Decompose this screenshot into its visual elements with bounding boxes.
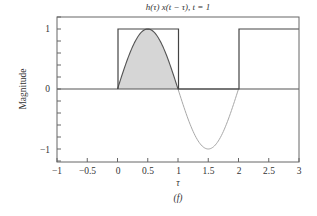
x-tick-label: 1.5	[203, 166, 215, 176]
x-axis-ticks	[57, 158, 299, 162]
figure-caption: (f)	[174, 193, 183, 204]
x-tick-label: 1	[176, 166, 181, 176]
product-shaded-area	[118, 29, 179, 89]
x-tick-label: 2.5	[263, 166, 275, 176]
x-tick-label: −1	[52, 166, 62, 176]
x-tick-label: 0	[116, 166, 121, 176]
chart: h(τ) x(t − τ), t = 1 1 0 −1 −1 −0.5 0 0.…	[0, 0, 317, 216]
y-tick-label: 0	[45, 84, 50, 94]
y-tick-label: −1	[40, 145, 50, 155]
y-axis-label: Magnitude	[18, 68, 28, 109]
x-tick-label: 3	[297, 166, 302, 176]
y-tick-label: 1	[45, 24, 50, 34]
x-tick-label: 0.5	[142, 166, 154, 176]
impulse-response-negative-lobe	[178, 89, 239, 149]
x-tick-label: −0.5	[79, 166, 96, 176]
chart-title: h(τ) x(t − τ), t = 1	[146, 2, 210, 12]
x-tick-label: 2	[237, 166, 242, 176]
y-axis-ticks	[57, 17, 61, 161]
x-axis-label: τ	[176, 178, 180, 188]
